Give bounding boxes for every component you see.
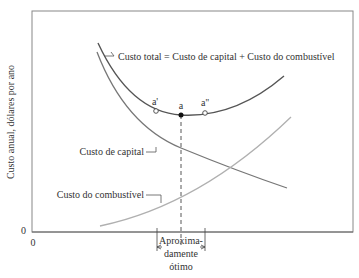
capital-cost-label: Custo de capital xyxy=(80,146,145,157)
fuel-leader xyxy=(146,195,161,203)
a-label: a xyxy=(179,100,184,111)
a-double-prime-label: a'' xyxy=(201,97,209,108)
point-a xyxy=(179,113,184,118)
total-cost-label: Custo total = Custo de capital + Custo d… xyxy=(118,51,335,62)
optimum-label-line3: ótimo xyxy=(169,261,192,272)
optimum-label-line1: Aproxima- xyxy=(159,235,203,246)
point-a-double-prime xyxy=(203,111,208,116)
point-a-prime xyxy=(154,109,159,114)
capital-leader xyxy=(146,147,156,152)
fuel-cost-label: Custo do combustível xyxy=(57,189,144,200)
y-zero-label: 0 xyxy=(21,225,26,236)
fuel-cost-curve xyxy=(100,117,291,226)
y-axis-label: Custo anual, dólares por ano xyxy=(5,65,16,179)
a-prime-label: a' xyxy=(152,96,158,107)
x-zero-label: 0 xyxy=(31,237,36,248)
optimum-label-line2: damente xyxy=(164,248,198,259)
cost-diagram: Custo anual, dólares por ano 0 0 Custo t… xyxy=(0,0,359,278)
total-leader xyxy=(104,52,114,56)
capital-cost-curve xyxy=(97,52,287,188)
